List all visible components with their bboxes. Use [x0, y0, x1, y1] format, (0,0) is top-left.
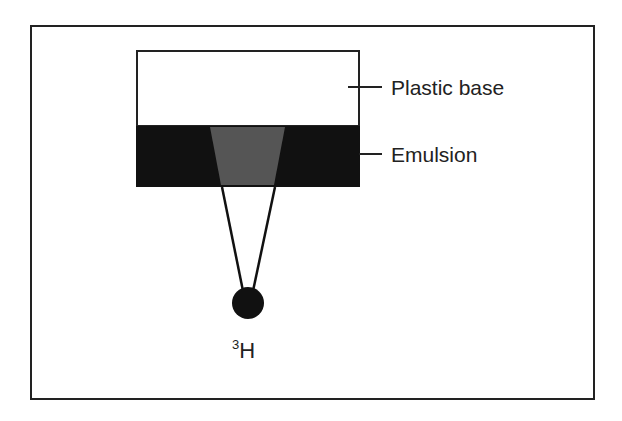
emission-line-right: [253, 187, 275, 291]
isotope-label: 3H: [232, 340, 255, 362]
emission-line-left: [222, 187, 243, 291]
mass-number: 3: [232, 337, 239, 352]
tritium-source-dot: [232, 287, 264, 319]
plastic-base-layer: [137, 51, 359, 126]
element-symbol: H: [239, 338, 255, 363]
emulsion-label: Emulsion: [391, 144, 477, 165]
exposed-region: [210, 127, 285, 185]
plastic-base-label: Plastic base: [391, 77, 504, 98]
diagram-canvas: [0, 0, 622, 421]
